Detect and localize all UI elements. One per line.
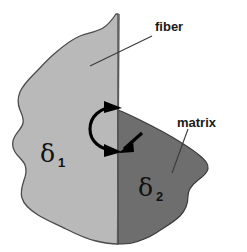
fiber-region: [13, 14, 118, 244]
diagram-canvas: fiber matrix δ 1 δ 2: [0, 0, 247, 252]
matrix-shape: [118, 110, 208, 244]
fiber-matrix-diagram: fiber matrix δ 1 δ 2: [0, 0, 247, 252]
fiber-shape: [13, 14, 118, 244]
matrix-delta-symbol: δ: [138, 173, 153, 202]
matrix-region: [118, 110, 208, 244]
fiber-delta-subscript: 1: [58, 155, 65, 170]
matrix-label: matrix: [177, 115, 217, 130]
fiber-delta-symbol: δ: [40, 139, 55, 168]
fiber-label: fiber: [155, 19, 183, 34]
matrix-delta-subscript: 2: [156, 189, 163, 204]
